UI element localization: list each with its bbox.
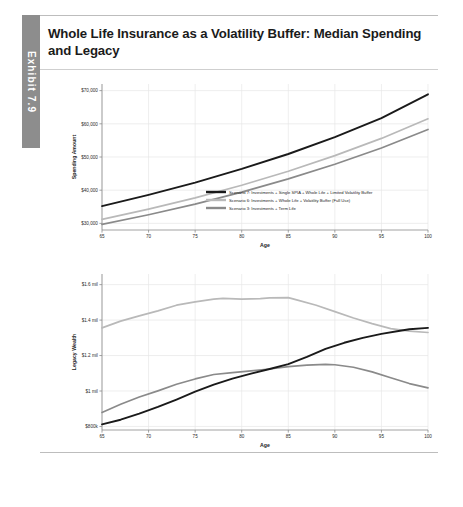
- y-axis-tick-label: $60,000: [81, 121, 98, 126]
- legend-label: Scenario 6: Investments + Whole Life + V…: [229, 197, 351, 202]
- y-axis-tick-label: $1.2 mil: [82, 353, 98, 358]
- x-axis-tick-label: 80: [239, 434, 245, 439]
- y-axis-title: Spending Amount: [71, 134, 77, 179]
- y-axis-tick-label: $1.6 mil: [82, 282, 98, 287]
- exhibit-page: Exhibit 7.9 Whole Life Insurance as a Vo…: [0, 0, 463, 507]
- y-axis-tick-label: $40,000: [81, 188, 98, 193]
- y-axis-tick-label: $70,000: [81, 88, 98, 93]
- x-axis-tick-label: 85: [286, 434, 292, 439]
- series-line: [102, 328, 428, 424]
- charts-container: $30,000$40,000$50,000$60,000$70,00065707…: [40, 70, 438, 460]
- spending-chart-svg: $30,000$40,000$50,000$60,000$70,00065707…: [40, 70, 438, 260]
- x-axis-tick-label: 65: [99, 234, 105, 239]
- x-axis-tick-label: 70: [146, 234, 152, 239]
- y-axis-tick-label: $1.4 mil: [82, 318, 98, 323]
- x-axis-tick-label: 70: [146, 434, 152, 439]
- x-axis-tick-label: 75: [193, 234, 199, 239]
- x-axis-tick-label: 85: [286, 234, 292, 239]
- x-axis-tick-label: 95: [379, 234, 385, 239]
- x-axis-title: Age: [260, 242, 270, 248]
- series-line: [102, 119, 428, 220]
- y-axis-tick-label: $1 mil: [86, 389, 98, 394]
- legacy-chart-svg: $800k$1 mil$1.2 mil$1.4 mil$1.6 mil65707…: [40, 260, 438, 460]
- x-axis-title: Age: [260, 442, 270, 448]
- x-axis-tick-label: 100: [424, 434, 432, 439]
- exhibit-content: Whole Life Insurance as a Volatility Buf…: [40, 15, 438, 453]
- x-axis-tick-label: 95: [379, 434, 385, 439]
- y-axis-tick-label: $30,000: [81, 221, 98, 226]
- exhibit-tab: Exhibit 7.9: [22, 15, 40, 148]
- y-axis-tick-label: $50,000: [81, 155, 98, 160]
- legacy-chart: $800k$1 mil$1.2 mil$1.4 mil$1.6 mil65707…: [40, 260, 438, 460]
- x-axis-tick-label: 65: [99, 434, 105, 439]
- x-axis-tick-label: 90: [332, 434, 338, 439]
- series-line: [102, 297, 428, 332]
- series-line: [102, 364, 428, 412]
- x-axis-tick-label: 75: [193, 434, 199, 439]
- x-axis-tick-label: 90: [332, 234, 338, 239]
- x-axis-tick-label: 80: [239, 234, 245, 239]
- legend-label: Scenario 7: Investments + Single SPIA + …: [229, 189, 373, 194]
- spending-chart: $30,000$40,000$50,000$60,000$70,00065707…: [40, 70, 438, 260]
- y-axis-tick-label: $800k: [85, 424, 98, 429]
- exhibit-tab-label: Exhibit 7.9: [26, 50, 37, 112]
- x-axis-tick-label: 100: [424, 234, 432, 239]
- legend-label: Scenario 3: Investments + Term Life: [229, 205, 297, 210]
- y-axis-title: Legacy Wealth: [71, 334, 77, 370]
- page-title: Whole Life Insurance as a Volatility Buf…: [40, 16, 438, 70]
